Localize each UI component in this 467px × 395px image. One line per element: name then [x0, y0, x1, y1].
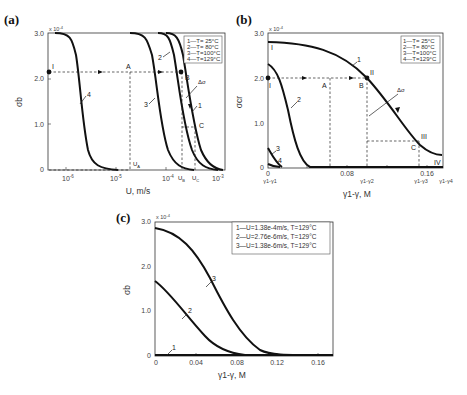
ytick: 3.0 — [141, 218, 151, 225]
legend-item: 4—T=129°C — [187, 56, 221, 62]
panel-c: (c) x 10-4 3.0 2.0 1.0 0 σb 0 0.04 0.08 … — [116, 210, 333, 380]
label-curve-2: 2 — [158, 54, 162, 61]
legend-item: 1—U=1.38e-4m/s, T=129°C — [236, 224, 317, 231]
panel-b-label: (b) — [236, 12, 252, 27]
figure: (a) x 10-4 3.0 2.0 1.0 0 σb 10-6 10-5 10… — [0, 0, 467, 395]
panel-c-label: (c) — [116, 210, 130, 225]
label-I: I — [52, 63, 54, 70]
xsub-label: γ1-γ3 — [414, 178, 427, 184]
label-UC: UC — [192, 175, 199, 183]
arrow-icon — [302, 76, 307, 80]
label-A: A — [126, 63, 131, 70]
ytick: 1.0 — [141, 307, 151, 314]
label-II: II — [370, 69, 374, 76]
arrow-icon — [349, 76, 354, 80]
label-B: B — [185, 74, 190, 81]
curve-2 — [268, 64, 443, 167]
arrow-icon — [395, 107, 400, 113]
xtick: 0.16 — [420, 170, 434, 177]
ytick: 0 — [40, 166, 44, 173]
label-IV: IV — [434, 159, 441, 166]
label-curve-2: 2 — [297, 96, 301, 103]
panel-c-legend: 1—U=1.38e-4m/s, T=129°C 2—U=2.76e-6m/s, … — [232, 222, 330, 254]
panel-a-legend: 1—T= 25°C 2—T= 80°C 3—T=100°C 4—T=129°C — [184, 36, 222, 63]
label-C: C — [411, 144, 416, 151]
label-B: B — [359, 82, 364, 89]
xsub-label: γ1-γ4 — [439, 178, 452, 184]
xtick: 0 — [154, 359, 158, 366]
panel-a-multiplier: x 10-4 — [49, 25, 64, 32]
xsub-label: γ1-γ1 — [263, 178, 276, 184]
xtick: 10-4 — [162, 174, 174, 182]
xtick: 10-5 — [110, 174, 122, 182]
label-curve-3: 3 — [276, 145, 280, 152]
panel-b-ylabel: σcr — [234, 96, 244, 108]
point-I — [266, 76, 271, 81]
arrow-icon — [98, 70, 103, 74]
ytick: 3.0 — [34, 30, 44, 37]
xtick: 0 — [266, 170, 270, 177]
xtick: 10-6 — [62, 174, 74, 182]
ytick: 0 — [260, 164, 264, 171]
label-delta-sigma: Δσ — [397, 87, 405, 93]
panel-c-yticks: 3.0 2.0 1.0 0 — [141, 218, 151, 359]
label-curve-2: 2 — [188, 307, 192, 314]
panel-b-multiplier: x 10-4 — [269, 25, 284, 32]
panel-c-multiplier: x 10-4 — [156, 213, 171, 220]
panel-c-xlabel: γ1-γ, M — [218, 370, 246, 380]
ytick: 1.0 — [34, 121, 44, 128]
label-III: III — [421, 133, 427, 140]
ytick: 1.0 — [254, 120, 264, 127]
xtick: 0.12 — [270, 359, 284, 366]
ytick: 0 — [147, 352, 151, 359]
arrow-icon — [158, 70, 163, 74]
panel-a-xlabel: U, m/s — [126, 186, 151, 196]
xtick: 0.08 — [230, 359, 244, 366]
label-curve-4: 4 — [87, 91, 91, 98]
xtick: 0.16 — [311, 359, 325, 366]
ytick: 2.0 — [254, 75, 264, 82]
panel-b-yticks: 3.0 2.0 1.0 0 — [254, 30, 264, 171]
xtick: 0.04 — [189, 359, 203, 366]
label-I: I — [269, 82, 271, 89]
label-delta-sigma: Δσ — [198, 79, 206, 85]
ytick: 3.0 — [254, 30, 264, 37]
panel-a-label: (a) — [4, 12, 19, 27]
panel-a-yticks: 3.0 2.0 1.0 0 — [34, 30, 51, 173]
label-curve-1: 1 — [172, 344, 176, 351]
label-C: C — [199, 122, 204, 129]
label-curve-1: 1 — [198, 102, 202, 109]
legend-item: 3—U=1.38e-6m/s, T=129°C — [236, 242, 317, 249]
panel-b-xlabel: γ1-γ, M — [343, 189, 371, 199]
xtick: 0.08 — [340, 170, 354, 177]
panel-b: (b) x 10-4 3.0 2.0 1.0 0 σcr 0 0.08 0.16… — [234, 12, 453, 199]
panel-a-xticks: 10-6 10-5 10-4 10-3 — [62, 167, 224, 182]
label-curve-3: 3 — [212, 275, 216, 282]
panel-c-ylabel: σb — [122, 285, 132, 295]
curve-4 — [55, 33, 118, 170]
panel-b-legend: 1—T= 25°C 2—T= 80°C 3—T=100°C 4—T=129°C — [401, 36, 440, 63]
point-B — [179, 70, 184, 75]
label-curve-4: 4 — [278, 157, 282, 164]
panel-a-ylabel: σb — [14, 97, 24, 107]
legend-item: 4—T=129°C — [403, 56, 437, 62]
label-curve-1: 1 — [357, 56, 361, 63]
label-UB: UB — [178, 175, 185, 183]
ytick: 2.0 — [34, 75, 44, 82]
point-II — [365, 76, 370, 81]
xtick: 10-3 — [212, 174, 224, 182]
xsub-label: γ1-γ2 — [360, 178, 373, 184]
label-I-top: I — [271, 44, 273, 51]
legend-item: 2—U=2.76e-6m/s, T=129°C — [236, 233, 317, 240]
label-UA: UA — [133, 161, 140, 169]
label-curve-3: 3 — [144, 101, 148, 108]
ytick: 2.0 — [141, 263, 151, 270]
curve-2 — [155, 281, 333, 355]
point-I — [47, 70, 52, 75]
panel-a: (a) x 10-4 3.0 2.0 1.0 0 σb 10-6 10-5 10… — [4, 12, 225, 196]
label-A: A — [322, 82, 327, 89]
